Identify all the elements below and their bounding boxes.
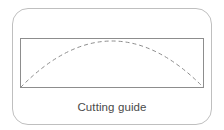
figure-root: Cutting guide (0, 0, 224, 130)
material-panel-rect (21, 39, 204, 88)
caption-label: Cutting guide (12, 100, 212, 114)
